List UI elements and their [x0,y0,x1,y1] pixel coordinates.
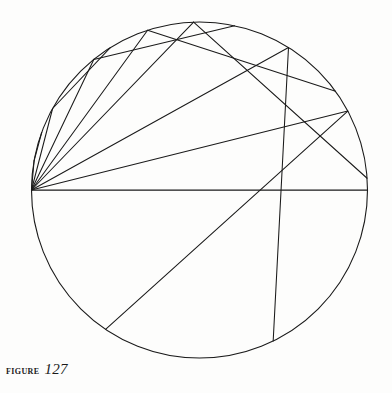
figure-caption-number: 127 [45,361,68,377]
diagram-background [0,0,392,393]
caustic-diagram [0,0,392,393]
figure-container: Figure127 [0,0,392,393]
figure-caption: Figure127 [6,361,68,377]
figure-caption-label: Figure [6,364,40,376]
